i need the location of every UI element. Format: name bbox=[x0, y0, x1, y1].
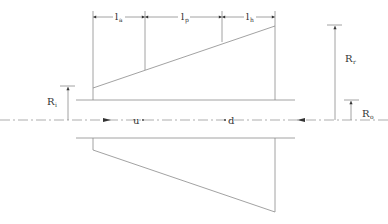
flow-markers: u d bbox=[103, 115, 305, 126]
label-ri: R i bbox=[47, 96, 57, 108]
label-u: u bbox=[133, 115, 140, 126]
svg-text:i: i bbox=[55, 101, 57, 108]
ri-dimension bbox=[60, 86, 75, 120]
svg-text:r: r bbox=[353, 58, 356, 65]
svg-text:o: o bbox=[370, 113, 374, 120]
rr-dimension bbox=[327, 25, 342, 120]
svg-text:l: l bbox=[246, 11, 249, 22]
label-lh: l h bbox=[246, 11, 254, 23]
svg-text:l: l bbox=[181, 11, 184, 22]
label-la: l a bbox=[115, 11, 123, 23]
ro-dimension bbox=[344, 100, 359, 120]
tapered-channel-diagram: l a l p l h u d R i bbox=[0, 0, 388, 224]
label-lp: l p bbox=[181, 11, 189, 24]
lower-wedge bbox=[93, 138, 275, 212]
label-rr: R r bbox=[345, 53, 356, 65]
shaft-lines bbox=[76, 100, 295, 138]
svg-text:R: R bbox=[345, 53, 353, 64]
arrow-right-icon bbox=[103, 118, 111, 122]
upper-wedge bbox=[93, 26, 275, 88]
svg-text:l: l bbox=[115, 11, 118, 22]
label-d: d bbox=[228, 115, 235, 126]
svg-text:h: h bbox=[250, 16, 254, 23]
svg-text:R: R bbox=[47, 96, 55, 107]
label-ro: R o bbox=[362, 108, 374, 120]
svg-text:a: a bbox=[119, 16, 123, 23]
svg-text:p: p bbox=[185, 16, 189, 24]
top-dimension-line bbox=[93, 11, 275, 100]
arrow-left-icon bbox=[297, 118, 305, 122]
svg-text:R: R bbox=[362, 108, 370, 119]
